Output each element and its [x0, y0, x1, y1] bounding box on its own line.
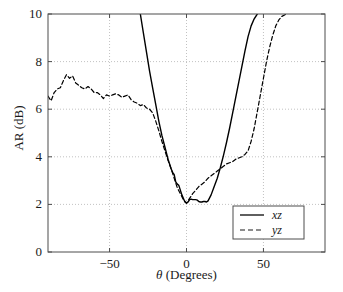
y-tick-label: 0 [2, 244, 42, 260]
x-tick-label: 50 [238, 256, 288, 272]
y-tick-label: 4 [2, 149, 42, 165]
y-tick-label: 8 [2, 54, 42, 70]
legend[interactable] [233, 206, 304, 239]
y-tick-label: 2 [2, 196, 42, 212]
y-tick-label: 10 [2, 6, 42, 22]
legend-label-xz: xz [272, 208, 282, 223]
x-tick-label: −50 [85, 256, 135, 272]
chart-figure: AR (dB) θ (Degrees) 0246810−50050 xz yz [0, 0, 343, 292]
legend-label-yz: yz [272, 223, 282, 238]
chart-svg [0, 0, 343, 292]
legend-box [233, 206, 304, 239]
x-tick-label: 0 [162, 256, 212, 272]
y-tick-label: 6 [2, 101, 42, 117]
